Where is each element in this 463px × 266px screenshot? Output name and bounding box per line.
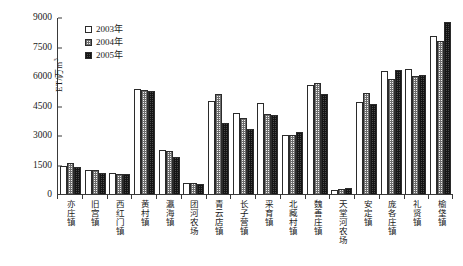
bar bbox=[331, 190, 338, 194]
bar bbox=[430, 36, 437, 194]
x-axis-label-cell: 采育镇 bbox=[255, 200, 280, 264]
x-axis-tick-label: 黄村镇 bbox=[139, 200, 148, 227]
x-axis-ticks bbox=[57, 195, 453, 199]
x-axis-tick-mark bbox=[181, 195, 206, 199]
bar bbox=[356, 102, 363, 194]
x-axis-label-cell: 天堂河农场 bbox=[329, 200, 354, 264]
x-axis-tick-mark bbox=[305, 195, 330, 199]
bar bbox=[92, 170, 99, 194]
x-axis-tick-label: 安定镇 bbox=[362, 200, 371, 227]
bar bbox=[271, 115, 278, 194]
bar-group bbox=[206, 18, 231, 194]
bar bbox=[264, 114, 271, 194]
x-axis-label-cell: 北臧村镇 bbox=[280, 200, 305, 264]
bar bbox=[314, 83, 321, 194]
bar bbox=[388, 79, 395, 194]
x-axis-tick-mark bbox=[107, 195, 132, 199]
legend-item: 2005年 bbox=[85, 51, 123, 60]
x-axis-tick-mark bbox=[329, 195, 354, 199]
bar-group bbox=[157, 18, 182, 194]
x-axis-tick-label: 瀛海镇 bbox=[164, 200, 173, 227]
x-axis-tick-mark bbox=[57, 195, 82, 199]
x-axis-tick-mark bbox=[255, 195, 280, 199]
bar bbox=[99, 173, 106, 194]
bar bbox=[321, 94, 328, 194]
x-axis-tick-mark bbox=[82, 195, 107, 199]
bar bbox=[437, 41, 444, 194]
x-axis-tick-mark bbox=[354, 195, 379, 199]
x-axis-tick-mark bbox=[280, 195, 305, 199]
bar-group bbox=[58, 18, 83, 194]
legend-swatch bbox=[85, 26, 92, 33]
bar bbox=[74, 167, 81, 194]
bar bbox=[173, 157, 180, 194]
bar-group bbox=[280, 18, 305, 194]
bar-group bbox=[330, 18, 355, 194]
bar bbox=[381, 71, 388, 194]
bar bbox=[215, 94, 222, 194]
bar bbox=[60, 166, 67, 194]
x-axis-tick-mark bbox=[428, 195, 453, 199]
bar-group bbox=[231, 18, 256, 194]
bar bbox=[338, 189, 345, 194]
x-axis-label-cell: 团河农场 bbox=[181, 200, 206, 264]
bar bbox=[444, 22, 451, 194]
bar bbox=[289, 135, 296, 194]
bar bbox=[233, 113, 240, 194]
x-axis-label-cell: 长子营镇 bbox=[230, 200, 255, 264]
legend-label: 2005年 bbox=[96, 51, 123, 60]
bar bbox=[116, 174, 123, 194]
bar bbox=[109, 173, 116, 194]
x-axis-label-cell: 礼贤镇 bbox=[404, 200, 429, 264]
x-axis-label-cell: 旧宫镇 bbox=[82, 200, 107, 264]
x-axis-tick-label: 亦庄镇 bbox=[65, 200, 74, 227]
x-axis-tick-label: 榆垡镇 bbox=[436, 200, 445, 227]
x-axis-label-cell: 榆垡镇 bbox=[428, 200, 453, 264]
bar bbox=[134, 89, 141, 194]
x-axis-tick-label: 长子营镇 bbox=[238, 200, 247, 236]
x-axis-tick-label: 礼贤镇 bbox=[412, 200, 421, 227]
x-axis-tick-mark bbox=[206, 195, 231, 199]
bar bbox=[123, 174, 130, 194]
x-axis-tick-mark bbox=[230, 195, 255, 199]
x-axis-tick-label: 庞各庄镇 bbox=[387, 200, 396, 236]
x-axis-tick-mark bbox=[379, 195, 404, 199]
legend-swatch bbox=[85, 52, 92, 59]
bar bbox=[148, 91, 155, 194]
bar bbox=[190, 183, 197, 194]
bar bbox=[166, 151, 173, 194]
bar bbox=[405, 69, 412, 194]
x-axis-tick-label: 北臧村镇 bbox=[288, 200, 297, 236]
legend-item: 2003年 bbox=[85, 25, 123, 34]
bar bbox=[197, 184, 204, 194]
bar bbox=[257, 103, 264, 194]
bar bbox=[419, 75, 426, 194]
bar bbox=[183, 183, 190, 194]
bar-chart: ET/万m3 0150030004500600075009000 亦庄镇旧宫镇西… bbox=[0, 0, 463, 266]
y-axis-tick-label: 3000 bbox=[33, 131, 58, 141]
x-axis-label-cell: 安定镇 bbox=[354, 200, 379, 264]
x-axis-tick-mark bbox=[404, 195, 429, 199]
x-axis-label-cell: 亦庄镇 bbox=[57, 200, 82, 264]
chart-legend: 2003年2004年2005年 bbox=[85, 25, 123, 60]
x-axis-label-cell: 庞各庄镇 bbox=[379, 200, 404, 264]
y-axis-tick-label: 1500 bbox=[33, 161, 58, 171]
x-axis-tick-label: 旧宫镇 bbox=[90, 200, 99, 227]
bar-group bbox=[181, 18, 206, 194]
bar bbox=[247, 129, 254, 194]
x-axis-tick-label: 西红门镇 bbox=[115, 200, 124, 236]
x-axis-label-cell: 西红门镇 bbox=[107, 200, 132, 264]
bar-group bbox=[354, 18, 379, 194]
bar bbox=[282, 135, 289, 194]
x-axis-tick-label: 青云店镇 bbox=[214, 200, 223, 236]
bar bbox=[345, 188, 352, 194]
bar bbox=[141, 90, 148, 194]
bar bbox=[85, 170, 92, 194]
x-axis-label-cell: 魏善庄镇 bbox=[305, 200, 330, 264]
x-axis-tick-label: 采育镇 bbox=[263, 200, 272, 227]
x-axis-tick-label: 魏善庄镇 bbox=[313, 200, 322, 236]
y-axis-tick-label: 7500 bbox=[33, 43, 58, 53]
bar-group bbox=[132, 18, 157, 194]
bar bbox=[370, 104, 377, 194]
bar-group bbox=[256, 18, 281, 194]
